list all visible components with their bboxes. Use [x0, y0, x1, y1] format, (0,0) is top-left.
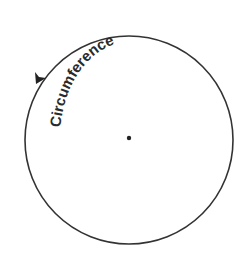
- circumference-label: Circumference: [46, 31, 116, 128]
- center-point: [127, 136, 131, 140]
- circle-diagram: Circumference: [0, 0, 243, 253]
- arrowhead-icon: [35, 72, 46, 84]
